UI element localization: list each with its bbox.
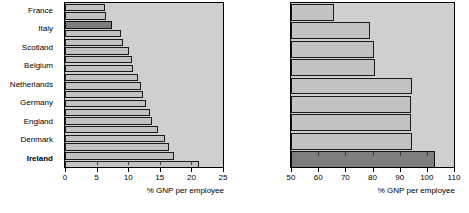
- x-tick-label-20: 20: [177, 174, 205, 182]
- bar-japan: [65, 39, 123, 46]
- bar-belgium: [291, 59, 375, 76]
- bar-italy: [291, 22, 370, 39]
- x-tick-label-10: 10: [114, 174, 142, 182]
- x-inner-tick-10: [128, 161, 129, 165]
- bar-canada: [65, 117, 152, 124]
- bar-australia: [65, 30, 121, 37]
- plot-area-left: [64, 2, 224, 168]
- x-tick-80: [373, 168, 374, 172]
- bar-netherlands: [65, 74, 138, 81]
- bar-france: [291, 4, 334, 21]
- x-tick-90: [400, 168, 401, 172]
- x-inner-tick-70: [345, 152, 346, 156]
- x-tick-label-70: 70: [331, 174, 359, 182]
- bar-denmark: [65, 143, 169, 150]
- x-inner-tick-20: [191, 161, 192, 165]
- category-label-england: England: [24, 118, 53, 126]
- x-inner-tick-15: [160, 161, 161, 165]
- x-tick-25: [223, 168, 224, 172]
- category-label-ireland: Ireland: [27, 155, 53, 163]
- x-tick-20: [191, 168, 192, 172]
- bar-england: [291, 114, 411, 131]
- chart-panel-right: FranceItalyScotlandBelgiumNetherlandsGer…: [235, 0, 469, 213]
- x-tick-50: [291, 168, 292, 172]
- x-tick-70: [345, 168, 346, 172]
- x-tick-label-50: 50: [277, 174, 305, 182]
- x-tick-label-60: 60: [304, 174, 332, 182]
- bar-scotland: [291, 41, 374, 58]
- bar-germany: [291, 96, 411, 113]
- bar-sweden: [65, 161, 199, 168]
- category-label-denmark: Denmark: [21, 136, 53, 144]
- x-tick-15: [160, 168, 161, 172]
- gnp-per-employee-figure: TurkeySpainIrelandAustraliaJapanFranceBe…: [0, 0, 469, 213]
- x-tick-100: [427, 168, 428, 172]
- category-label-belgium: Belgium: [24, 62, 53, 70]
- bar-portugal: [65, 100, 146, 107]
- category-label-scotland: Scotland: [22, 44, 53, 52]
- x-inner-tick-5: [97, 161, 98, 165]
- x-tick-60: [318, 168, 319, 172]
- category-label-germany: Germany: [20, 99, 53, 107]
- x-inner-tick-90: [400, 152, 401, 156]
- x-tick-label-110: 110: [440, 174, 468, 182]
- category-label-france: France: [28, 7, 53, 15]
- bar-united-states: [65, 82, 141, 89]
- bar-ireland: [65, 21, 112, 28]
- bar-switzerland: [65, 152, 174, 159]
- x-tick-label-80: 80: [359, 174, 387, 182]
- x-inner-tick-60: [318, 152, 319, 156]
- bar-austria: [65, 109, 150, 116]
- x-tick-label-25: 25: [209, 174, 237, 182]
- bar-norway: [65, 135, 165, 142]
- category-label-italy: Italy: [38, 25, 53, 33]
- x-tick-label-0: 0: [51, 174, 79, 182]
- bar-turkey: [65, 4, 105, 11]
- x-tick-label-15: 15: [146, 174, 174, 182]
- bar-spain: [65, 12, 106, 19]
- x-axis-title-left: % GNP per employee: [104, 187, 224, 195]
- x-tick-10: [128, 168, 129, 172]
- bar-united-kingdom: [65, 91, 143, 98]
- x-tick-5: [97, 168, 98, 172]
- x-tick-label-100: 100: [413, 174, 441, 182]
- category-label-netherlands: Netherlands: [10, 81, 53, 89]
- bar-germany: [65, 65, 133, 72]
- bar-belgium: [65, 56, 132, 63]
- x-inner-tick-100: [427, 152, 428, 156]
- x-axis-title-right: % GNP per employee: [335, 187, 455, 195]
- x-tick-label-5: 5: [83, 174, 111, 182]
- bar-france: [65, 47, 129, 54]
- x-tick-label-90: 90: [386, 174, 414, 182]
- bar-ireland: [291, 151, 435, 168]
- plot-area-right: [290, 2, 455, 168]
- bar-denmark: [291, 133, 412, 150]
- bar-netherlands: [291, 78, 412, 95]
- x-tick-0: [65, 168, 66, 172]
- x-inner-tick-80: [373, 152, 374, 156]
- x-tick-110: [454, 168, 455, 172]
- bar-finland: [65, 126, 158, 133]
